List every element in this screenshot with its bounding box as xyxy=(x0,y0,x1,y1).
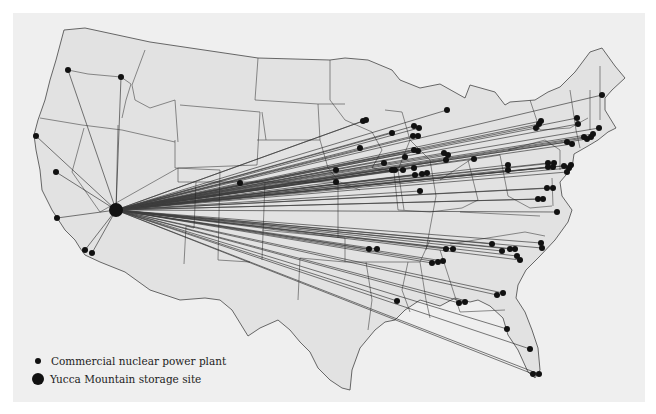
plant-marker xyxy=(53,169,59,175)
plant-marker xyxy=(569,141,575,147)
plant-marker xyxy=(435,259,441,265)
legend: Commercial nuclear power plant Yucca Mou… xyxy=(30,352,226,388)
plant-marker xyxy=(538,118,544,124)
plant-marker xyxy=(590,131,596,137)
plant-marker xyxy=(456,300,462,306)
plant-marker xyxy=(540,196,546,202)
plant-marker xyxy=(599,92,605,98)
plant-marker xyxy=(33,133,39,139)
plant-marker xyxy=(54,215,60,221)
plant-marker xyxy=(489,241,495,247)
plant-marker xyxy=(512,246,518,252)
small-dot-icon xyxy=(35,358,41,364)
legend-label-plant: Commercial nuclear power plant xyxy=(51,352,226,370)
plant-marker xyxy=(554,209,560,215)
legend-item-plant: Commercial nuclear power plant xyxy=(30,352,226,370)
plant-marker xyxy=(357,145,363,151)
plant-marker xyxy=(444,107,450,113)
plant-marker xyxy=(65,67,71,73)
plant-marker xyxy=(494,292,500,298)
plant-marker xyxy=(536,371,542,377)
plant-marker xyxy=(499,248,505,254)
plant-marker xyxy=(505,167,511,173)
plant-marker xyxy=(517,257,523,263)
plant-marker xyxy=(415,133,421,139)
plant-marker xyxy=(568,162,574,168)
plant-marker xyxy=(471,156,477,162)
plant-marker xyxy=(443,246,449,252)
plant-marker xyxy=(527,346,533,352)
plant-marker xyxy=(411,165,417,171)
plant-marker xyxy=(550,164,556,170)
plant-marker xyxy=(538,240,544,246)
plant-marker xyxy=(394,298,400,304)
plant-marker xyxy=(429,260,435,266)
plant-marker xyxy=(419,171,425,177)
plant-marker xyxy=(237,180,243,186)
plant-marker xyxy=(550,185,556,191)
plant-marker xyxy=(500,290,506,296)
plant-marker xyxy=(574,115,580,121)
plant-marker xyxy=(462,299,468,305)
plant-marker xyxy=(366,246,372,252)
plant-marker xyxy=(363,117,369,123)
plant-marker xyxy=(389,130,395,136)
plant-marker xyxy=(575,121,581,127)
plant-marker xyxy=(416,125,422,131)
plant-marker xyxy=(412,172,418,178)
legend-label-yucca: Yucca Mountain storage site xyxy=(50,370,201,388)
plant-marker xyxy=(118,74,124,80)
plant-marker xyxy=(392,167,398,173)
plant-marker xyxy=(82,247,88,253)
plant-marker xyxy=(539,245,545,251)
plant-marker xyxy=(596,125,602,131)
plant-marker xyxy=(564,169,570,175)
plant-marker xyxy=(445,152,451,158)
legend-item-yucca: Yucca Mountain storage site xyxy=(30,370,226,388)
plant-marker xyxy=(400,167,406,173)
plant-marker xyxy=(544,185,550,191)
plant-marker xyxy=(424,170,430,176)
plant-marker xyxy=(374,246,380,252)
plant-marker xyxy=(333,179,339,185)
yucca-mountain-marker xyxy=(109,203,123,217)
plant-marker xyxy=(440,258,446,264)
plant-marker xyxy=(417,188,423,194)
large-dot-icon xyxy=(32,373,44,385)
plant-marker xyxy=(381,160,387,166)
plant-marker xyxy=(450,246,456,252)
plant-marker xyxy=(333,167,339,173)
plant-marker xyxy=(530,371,536,377)
plant-marker xyxy=(415,148,421,154)
plant-marker xyxy=(504,326,510,332)
plant-marker xyxy=(89,250,95,256)
plant-marker xyxy=(402,154,408,160)
